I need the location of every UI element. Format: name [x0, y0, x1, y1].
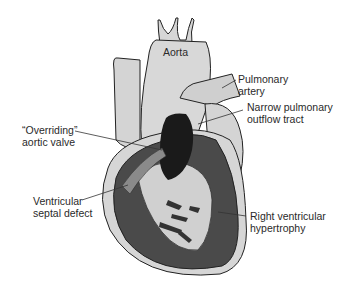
label-line: septal defect — [33, 207, 93, 219]
label-line: Right ventricular — [250, 210, 326, 222]
label-vsd: Ventricular septal defect — [33, 195, 93, 219]
label-line: hypertrophy — [250, 222, 326, 234]
label-line: Pulmonary — [238, 73, 288, 85]
label-aorta: Aorta — [163, 46, 188, 58]
label-line: artery — [238, 85, 288, 97]
label-rvh: Right ventricular hypertrophy — [250, 210, 326, 234]
label-line: “Overriding” — [22, 124, 77, 136]
left-atrium — [114, 58, 141, 149]
label-aorta-text: Aorta — [163, 46, 188, 58]
label-pulmonary-artery: Pulmonary artery — [238, 73, 288, 97]
label-overriding-valve: “Overriding” aortic valve — [22, 124, 77, 148]
label-line: Narrow pulmonary — [247, 101, 333, 113]
label-narrow-outflow: Narrow pulmonary outflow tract — [247, 101, 333, 125]
label-line: outflow tract — [247, 113, 333, 125]
label-line: aortic valve — [22, 136, 77, 148]
label-line: Ventricular — [33, 195, 93, 207]
